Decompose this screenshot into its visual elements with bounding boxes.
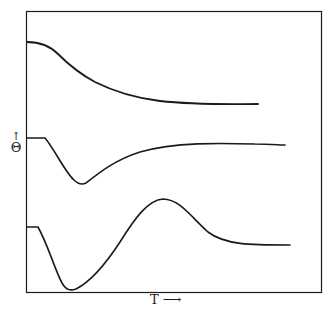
plot-frame — [27, 12, 322, 293]
y-axis-label: ↑ Θ — [9, 132, 23, 155]
x-axis-symbol: T — [150, 292, 159, 307]
curve-middle — [27, 138, 285, 184]
curve-bottom — [27, 199, 290, 290]
right-arrow-icon: ⟶ — [163, 292, 182, 307]
curve-top — [27, 42, 258, 104]
y-axis-symbol: Θ — [11, 140, 22, 155]
x-axis-label: T ⟶ — [150, 292, 181, 307]
chart-figure — [0, 0, 332, 312]
